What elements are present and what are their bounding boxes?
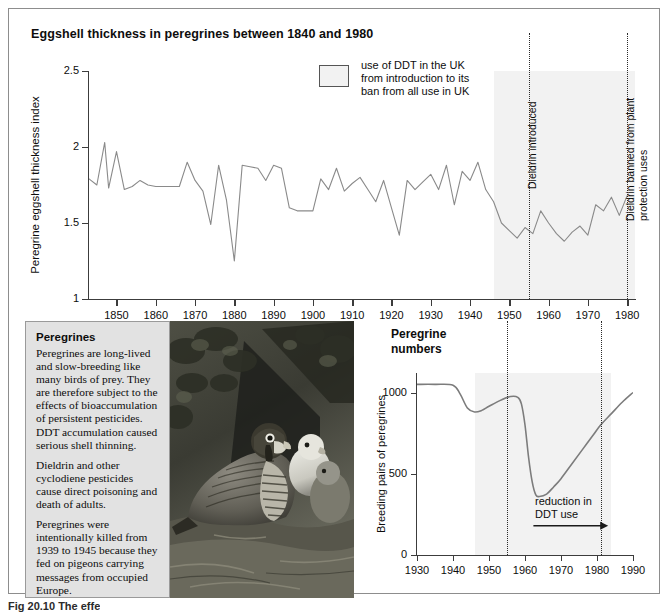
y-tick [82,299,89,300]
x-tick-label: 1910 [340,309,364,321]
info-paragraph: Peregrines were intentionally killed fro… [36,518,160,597]
y-tick-label: 2 [49,140,79,152]
page-title: Eggshell thickness in peregrines between… [31,27,373,41]
x-tick [588,299,589,306]
y-tick [82,223,89,224]
x-tick-label: 1920 [379,309,403,321]
y-axis-title: Peregrine eggshell thickness index [29,96,41,274]
x-tick-label: 1930 [418,309,442,321]
x-tick [627,299,628,306]
figure-frame: Eggshell thickness in peregrines between… [8,8,660,594]
reduction-note-line1: reduction in [535,495,592,507]
numbers-x-tick [489,555,490,561]
annotation-label: Dieldrin introduced [526,101,538,189]
y-tick-label: 1.5 [49,216,79,228]
x-tick-label: 1940 [458,309,482,321]
numbers-x-tick-label: 1980 [585,564,609,576]
x-tick [549,299,550,306]
x-tick [352,299,353,306]
y-tick [82,71,89,72]
y-tick [82,147,89,148]
x-tick-label: 1900 [301,309,325,321]
x-tick-label: 1980 [615,309,639,321]
eggshell-thickness-chart: use of DDT in the UKfrom introduction to… [23,49,653,314]
x-tick [313,299,314,306]
x-tick [431,299,432,306]
numbers-x-tick [597,555,598,561]
info-paragraph: Peregrines are long-lived and slow-breed… [36,347,160,452]
x-tick-label: 1870 [183,309,207,321]
x-tick [274,299,275,306]
numbers-x-tick-label: 1960 [513,564,537,576]
x-tick-label: 1890 [261,309,285,321]
x-tick [195,299,196,306]
numbers-x-tick-label: 1930 [405,564,429,576]
info-paragraph: Dieldrin and other cyclodiene pesticides… [36,459,160,511]
x-tick-label: 1850 [104,309,128,321]
reduction-arrow [417,373,633,555]
numbers-x-tick [561,555,562,561]
x-tick [234,299,235,306]
numbers-x-tick [525,555,526,561]
numbers-x-tick [633,555,634,561]
numbers-title-line2: numbers [391,342,442,356]
peregrine-photo [170,321,354,598]
y-tick-label: 2.5 [49,64,79,76]
x-tick-label: 1950 [497,309,521,321]
numbers-x-tick-label: 1950 [477,564,501,576]
x-tick [509,299,510,306]
numbers-chart-title: Peregrine numbers [391,327,446,356]
x-tick-label: 1880 [222,309,246,321]
numbers-plot-area: Breeding pairs of peregrines 05001000 19… [417,373,633,555]
x-tick [470,299,471,306]
numbers-x-tick-label: 1970 [549,564,573,576]
x-tick-label: 1860 [144,309,168,321]
peregrine-numbers-chart: Peregrine numbers Breeding pairs of pere… [369,321,654,598]
numbers-y-axis-title: Breeding pairs of peregrines [375,395,387,533]
numbers-y-tick-label: 1000 [373,386,407,398]
numbers-y-tick-label: 0 [373,548,407,560]
numbers-title-line1: Peregrine [391,327,446,341]
numbers-x-tick-label: 1940 [441,564,465,576]
eggshell-plot-area: Peregrine eggshell thickness index 11.52… [89,71,635,299]
x-tick-label: 1970 [576,309,600,321]
x-tick [156,299,157,306]
annotation-label: Dieldrin banned from plant protection us… [624,71,649,221]
peregrine-photo-image [170,321,354,598]
reduction-ddt-annotation: reduction in DDT use [535,495,592,521]
x-tick [116,299,117,306]
eggshell-data-line [89,71,635,299]
numbers-y-tick-label: 500 [373,467,407,479]
x-tick [391,299,392,306]
y-tick-label: 1 [49,292,79,304]
x-tick-label: 1960 [536,309,560,321]
info-panel-heading: Peregrines [36,331,160,343]
numbers-x-tick-label: 1990 [621,564,645,576]
peregrines-info-panel: Peregrines Peregrines are long-lived and… [25,321,170,598]
reduction-note-line2: DDT use [535,508,578,520]
figure-caption: Fig 20.10 The effe [8,600,100,614]
numbers-x-tick [453,555,454,561]
numbers-x-tick [417,555,418,561]
x-axis-line [88,299,636,300]
